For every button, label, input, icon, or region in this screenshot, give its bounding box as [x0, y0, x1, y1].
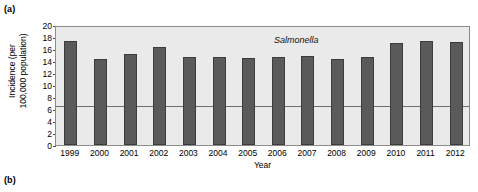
- x-tick-label: 2008: [327, 148, 346, 158]
- salmonella-incidence-chart: Incidence (per 100,000 population) 02468…: [0, 20, 478, 172]
- x-tick-label: 2005: [238, 148, 257, 158]
- bar: [213, 57, 226, 145]
- y-tick-label: 8: [36, 94, 52, 103]
- plot-inner: [56, 27, 469, 145]
- y-tick-label: 12: [36, 70, 52, 79]
- bar: [153, 47, 166, 145]
- x-tick-label: 2006: [268, 148, 287, 158]
- y-axis-title: Incidence (per 100,000 population): [7, 11, 33, 131]
- y-axis-title-line-2: 100,000 population): [18, 11, 29, 131]
- bar: [64, 41, 77, 145]
- x-tick-label: 2011: [416, 148, 434, 158]
- y-tick-label: 18: [36, 34, 52, 43]
- x-tick-label: 2000: [90, 148, 109, 158]
- series-annotation-salmonella: Salmonella: [274, 35, 319, 45]
- x-tick-label: 2004: [209, 148, 228, 158]
- reference-line: [56, 106, 469, 107]
- x-tick-label: 2002: [149, 148, 168, 158]
- x-tick-label: 2001: [120, 148, 139, 158]
- y-tick-label: 6: [36, 106, 52, 115]
- y-tick-label: 20: [36, 22, 52, 31]
- bar: [361, 57, 374, 145]
- y-tick-label: 14: [36, 58, 52, 67]
- bar: [124, 54, 137, 145]
- bar: [272, 57, 285, 145]
- x-tick-label: 1999: [60, 148, 79, 158]
- y-tick-label: 10: [36, 82, 52, 91]
- bar: [450, 42, 463, 145]
- x-tick-label: 2007: [297, 148, 316, 158]
- bar: [331, 59, 344, 145]
- y-axis-ticks: 02468101214161820: [36, 20, 52, 146]
- y-tick-label: 0: [36, 142, 52, 151]
- x-tick-label: 2009: [357, 148, 376, 158]
- bar: [420, 41, 433, 145]
- panel-label-b: (b): [4, 175, 16, 185]
- y-tick-label: 4: [36, 118, 52, 127]
- y-tick-label: 2: [36, 130, 52, 139]
- x-tick-label: 2012: [446, 148, 465, 158]
- x-axis-title: Year: [55, 160, 470, 170]
- y-axis-title-line-1: Incidence (per: [7, 11, 18, 131]
- bar: [94, 59, 107, 145]
- bar: [242, 58, 255, 145]
- bar: [390, 43, 403, 145]
- x-tick-label: 2003: [179, 148, 198, 158]
- x-tick-label: 2010: [386, 148, 405, 158]
- y-tick-mark: [53, 146, 56, 147]
- bar: [301, 56, 314, 145]
- plot-area: Salmonella: [55, 26, 470, 146]
- bar: [183, 57, 196, 145]
- y-tick-label: 16: [36, 46, 52, 55]
